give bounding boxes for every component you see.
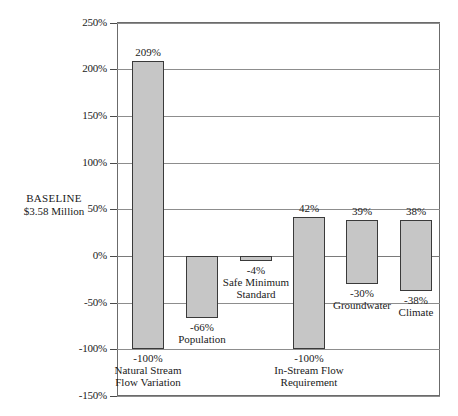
bar-4 bbox=[293, 217, 325, 350]
bar-category-label-line2: Flow Variation bbox=[98, 376, 198, 388]
y-axis-tick bbox=[110, 256, 117, 257]
bar-low-value-label: -4% bbox=[216, 264, 296, 276]
bar-5 bbox=[346, 220, 378, 284]
bar-low-value-label: -100% bbox=[269, 352, 349, 364]
gridline-250 bbox=[117, 23, 440, 24]
sensitivity-tornado-chart: 250%200%150%100%50%0%-50%-100%-150% BASE… bbox=[0, 0, 458, 416]
y-axis-label: 150% bbox=[47, 110, 107, 121]
bar-low-value-label: -100% bbox=[108, 352, 188, 364]
bar-category-label-line1: Climate bbox=[366, 306, 458, 318]
gridline-neg150 bbox=[117, 396, 440, 397]
bar-low-value-label: -66% bbox=[162, 321, 242, 333]
y-axis-tick bbox=[110, 209, 117, 210]
y-axis-tick bbox=[110, 163, 117, 164]
y-axis-tick bbox=[110, 396, 117, 397]
y-axis-tick bbox=[110, 349, 117, 350]
bar-category-label: Climate bbox=[366, 306, 458, 318]
gridline-0 bbox=[117, 256, 440, 257]
y-axis-label: -100% bbox=[47, 343, 107, 354]
bar-high-value-label: 38% bbox=[376, 205, 456, 217]
bar-category-label: In-Stream FlowRequirement bbox=[259, 364, 359, 388]
baseline-annotation-line2: $3.58 Million bbox=[8, 205, 100, 218]
bar-category-label-line1: Population bbox=[152, 333, 252, 345]
bar-category-label-line2: Standard bbox=[206, 288, 306, 300]
bar-category-label-line1: Safe Minimum bbox=[206, 276, 306, 288]
y-axis-label: -150% bbox=[47, 390, 107, 401]
bar-6 bbox=[400, 220, 432, 291]
bar-low-value-label: -38% bbox=[376, 294, 456, 306]
baseline-annotation-line1: BASELINE bbox=[8, 192, 100, 205]
gridline-200 bbox=[117, 69, 440, 70]
bar-category-label-line1: Natural Stream bbox=[98, 364, 198, 376]
y-axis-label: -50% bbox=[47, 297, 107, 308]
bar-high-value-label: 209% bbox=[108, 46, 188, 58]
bar-category-label: Population bbox=[152, 333, 252, 345]
y-axis-tick bbox=[110, 303, 117, 304]
y-axis-tick bbox=[110, 69, 117, 70]
bar-category-label-line1: In-Stream Flow bbox=[259, 364, 359, 376]
y-axis-tick bbox=[110, 116, 117, 117]
y-axis-label: 250% bbox=[47, 17, 107, 28]
gridline-neg100 bbox=[117, 349, 440, 350]
gridline-150 bbox=[117, 116, 440, 117]
bar-1 bbox=[132, 61, 164, 350]
y-axis-label: 0% bbox=[47, 250, 107, 261]
bar-category-label-line2: Requirement bbox=[259, 376, 359, 388]
y-axis-label: 200% bbox=[47, 63, 107, 74]
y-axis-label: 100% bbox=[47, 157, 107, 168]
bar-category-label: Safe MinimumStandard bbox=[206, 276, 306, 300]
bar-category-label: Natural StreamFlow Variation bbox=[98, 364, 198, 388]
y-axis-tick bbox=[110, 23, 117, 24]
baseline-annotation: BASELINE $3.58 Million bbox=[8, 192, 100, 218]
bar-3 bbox=[240, 256, 272, 261]
gridline-100 bbox=[117, 163, 440, 164]
